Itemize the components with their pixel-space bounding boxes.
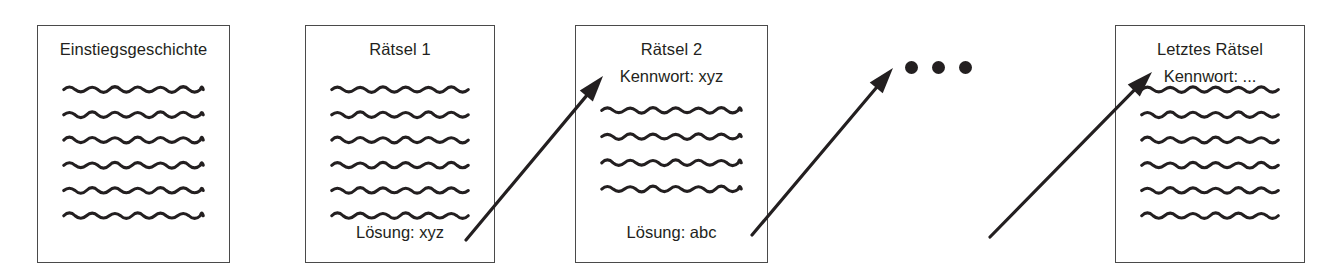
wavy-text-lines [1116, 26, 1304, 262]
wavy-line [332, 87, 469, 93]
card-title: Letztes Rätsel [1116, 41, 1304, 58]
wavy-line [1142, 87, 1279, 93]
wavy-text-lines [38, 26, 229, 262]
ellipsis-dots [905, 61, 972, 74]
card-password-label: Kennwort: ... [1116, 68, 1304, 85]
wavy-line [64, 137, 204, 143]
wavy-line [1142, 162, 1279, 168]
card-letztes-raetsel: Letztes RätselKennwort: ... [1115, 25, 1305, 263]
card-title: Rätsel 2 [576, 41, 767, 58]
wavy-line [602, 134, 742, 140]
card-einstiegsgeschichte: Einstiegsgeschichte [37, 25, 230, 263]
wavy-line [1142, 112, 1279, 118]
diagram-canvas: EinstiegsgeschichteRätsel 1Lösung: xyzRä… [0, 0, 1332, 278]
wavy-line [64, 213, 204, 219]
card-password-label: Kennwort: xyz [576, 68, 767, 85]
wavy-line [1142, 188, 1279, 194]
card-solution-label: Lösung: abc [576, 224, 767, 241]
arrow-shaft [752, 82, 881, 235]
card-raetsel-2: Rätsel 2Kennwort: xyzLösung: abc [575, 25, 768, 263]
wavy-line [332, 162, 469, 168]
wavy-line [64, 112, 204, 118]
wavy-line [1142, 213, 1279, 219]
wavy-line [64, 188, 204, 194]
card-solution-label: Lösung: xyz [306, 224, 494, 241]
card-title: Rätsel 1 [306, 41, 494, 58]
wavy-line [332, 112, 469, 118]
wavy-line [332, 188, 469, 194]
wavy-line [64, 87, 204, 93]
ellipsis-dot [905, 61, 918, 74]
wavy-line [64, 162, 204, 168]
wavy-line [602, 186, 742, 192]
card-title: Einstiegsgeschichte [38, 41, 229, 58]
wavy-line [602, 160, 742, 166]
ellipsis-dot [959, 61, 972, 74]
arrow-head [870, 68, 893, 93]
card-raetsel-1: Rätsel 1Lösung: xyz [305, 25, 495, 263]
arrow-raetsel2-to-ellipsis [752, 68, 893, 235]
ellipsis-dot [932, 61, 945, 74]
wavy-line [1142, 137, 1279, 143]
wavy-line [602, 108, 742, 114]
wavy-line [332, 213, 469, 219]
wavy-line [332, 137, 469, 143]
